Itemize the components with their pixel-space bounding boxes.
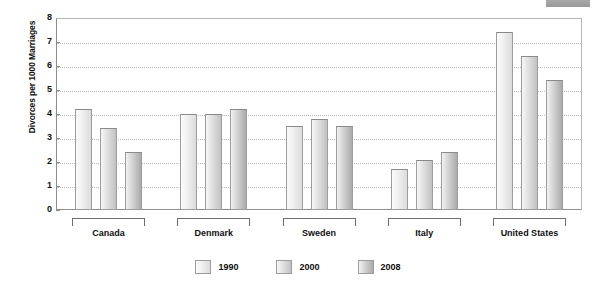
bar-canada-2000 xyxy=(100,128,117,210)
group-bracket-denmark xyxy=(177,218,250,226)
y-axis-tick-label: 7 xyxy=(32,36,52,46)
y-axis-tick-mark xyxy=(56,66,60,67)
y-axis-tick-label: 3 xyxy=(32,132,52,142)
group-label-italy: Italy xyxy=(364,228,484,238)
y-axis-tick-mark xyxy=(56,42,60,43)
group-labels: CanadaDenmarkSwedenItalyUnited States xyxy=(56,228,582,244)
bar-denmark-1990 xyxy=(180,114,197,210)
legend-label-1990: 1990 xyxy=(218,262,238,272)
top-right-gray-tab xyxy=(546,0,590,7)
bar-canada-2008 xyxy=(125,152,142,210)
group-bracket-sweden xyxy=(283,218,356,226)
y-axis-tick-labels: 012345678 xyxy=(28,18,52,210)
bar-sweden-2008 xyxy=(336,126,353,210)
y-axis-tick-mark xyxy=(56,210,60,211)
group-label-denmark: Denmark xyxy=(154,228,274,238)
bar-italy-1990 xyxy=(391,169,408,210)
group-brackets xyxy=(56,212,582,228)
bar-italy-2000 xyxy=(416,160,433,210)
legend-item-2000[interactable]: 2000 xyxy=(276,260,319,274)
bar-united-states-2008 xyxy=(546,80,563,210)
bar-united-states-2000 xyxy=(521,56,538,210)
y-axis-tick-mark xyxy=(56,114,60,115)
bars-layer xyxy=(56,18,582,210)
legend-item-1990[interactable]: 1990 xyxy=(195,260,238,274)
group-label-united-states: United States xyxy=(469,228,589,238)
y-axis-tick-label: 4 xyxy=(32,108,52,118)
y-axis-tick-label: 5 xyxy=(32,84,52,94)
bar-sweden-1990 xyxy=(286,126,303,210)
y-axis-tick-mark xyxy=(56,138,60,139)
y-axis-tick-label: 1 xyxy=(32,180,52,190)
group-bracket-italy xyxy=(388,218,461,226)
legend-item-2008[interactable]: 2008 xyxy=(358,260,401,274)
bar-chart: Divorces per 1000 Marriages 012345678 Ca… xyxy=(0,0,596,283)
y-axis-tick-label: 8 xyxy=(32,12,52,22)
y-axis-tick-mark xyxy=(56,186,60,187)
bar-denmark-2008 xyxy=(230,109,247,210)
y-axis-tick-mark xyxy=(56,90,60,91)
bar-denmark-2000 xyxy=(205,114,222,210)
series-swatch-1990 xyxy=(195,260,211,274)
legend-label-2000: 2000 xyxy=(299,262,319,272)
series-swatch-2008 xyxy=(358,260,374,274)
group-bracket-canada xyxy=(72,218,145,226)
bar-italy-2008 xyxy=(441,152,458,210)
series-swatch-2000 xyxy=(276,260,292,274)
y-axis-tick-label: 6 xyxy=(32,60,52,70)
y-axis-tick-label: 2 xyxy=(32,156,52,166)
legend-label-2008: 2008 xyxy=(381,262,401,272)
group-label-canada: Canada xyxy=(49,228,169,238)
y-axis-tick-mark xyxy=(56,162,60,163)
y-axis-tick-label: 0 xyxy=(32,204,52,214)
group-bracket-united-states xyxy=(493,218,566,226)
bar-canada-1990 xyxy=(75,109,92,210)
group-label-sweden: Sweden xyxy=(259,228,379,238)
chart-legend: 199020002008 xyxy=(0,256,596,278)
bar-united-states-1990 xyxy=(496,32,513,210)
bar-sweden-2000 xyxy=(311,119,328,210)
